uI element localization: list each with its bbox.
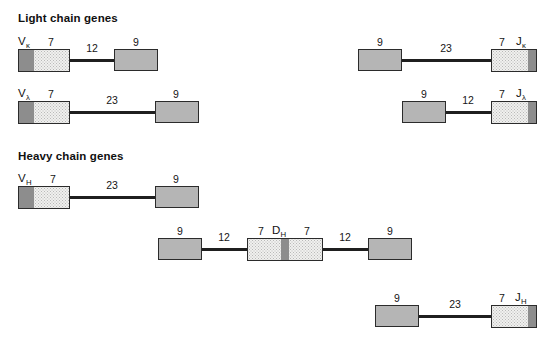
nonamer-box-j-kappa (358, 49, 402, 71)
nonamer-box-d-heavy-left (158, 238, 202, 260)
j-kappa-coding-region (528, 50, 536, 71)
heptamer-label-v-heavy: 7 (46, 173, 60, 185)
spacer-label-v-kappa: 12 (80, 42, 104, 54)
label-d-heavy: DH (272, 224, 286, 236)
spacer-label-j-heavy: 23 (443, 298, 467, 310)
v-heavy-dashed-edge (18, 188, 19, 207)
nonamer-label-d-heavy-left: 9 (168, 225, 192, 237)
label-v-lambda: Vλ (18, 87, 30, 99)
spacer-label-d-heavy-left: 12 (212, 231, 236, 243)
d-heavy-heptamer-region-left (248, 239, 281, 260)
spacer-line-v-lambda (70, 111, 155, 114)
d-heavy-coding-region (281, 239, 289, 260)
heptamer-label-v-lambda: 7 (44, 88, 58, 100)
spacer-label-j-kappa: 23 (434, 42, 458, 54)
label-j-lambda: Jλ (516, 87, 526, 99)
v-kappa-coding-region (19, 50, 34, 71)
spacer-label-d-heavy-right: 12 (333, 231, 357, 243)
spacer-line-v-kappa (70, 59, 114, 62)
spacer-label-j-lambda: 12 (456, 94, 480, 106)
heptamer-label-j-heavy: 7 (495, 292, 509, 304)
nonamer-box-j-heavy (375, 305, 419, 327)
figure-canvas: Light chain genes Vκ 7 12 9 Vλ 7 23 9 9 … (0, 0, 546, 337)
v-heavy-coding-region (19, 187, 34, 208)
label-j-kappa: Jκ (516, 35, 526, 47)
nonamer-label-v-heavy: 9 (164, 173, 188, 185)
heptamer-label-j-lambda: 7 (495, 88, 509, 100)
j-lambda-heptamer-region (492, 102, 528, 123)
segment-j-lambda (491, 101, 537, 124)
segment-j-heavy (491, 305, 537, 328)
j-kappa-heptamer-region (492, 50, 528, 71)
segment-d-heavy (247, 238, 323, 261)
v-kappa-dashed-edge (18, 51, 19, 70)
heptamer-label-v-kappa: 7 (44, 36, 58, 48)
spacer-line-j-kappa (402, 59, 491, 62)
segment-v-lambda (18, 101, 70, 124)
label-v-kappa: Vκ (18, 35, 30, 47)
j-lambda-coding-region (528, 102, 536, 123)
nonamer-label-d-heavy-right: 9 (378, 225, 402, 237)
nonamer-box-v-heavy (155, 186, 199, 208)
label-v-heavy: VH (18, 172, 31, 184)
d-heavy-heptamer-region-right (289, 239, 322, 260)
j-heavy-coding-region (528, 306, 536, 327)
j-heavy-heptamer-region (492, 306, 528, 327)
spacer-line-d-heavy-left (202, 248, 247, 251)
spacer-label-v-lambda: 23 (100, 94, 124, 106)
v-heavy-heptamer-region (34, 187, 69, 208)
spacer-line-v-heavy (70, 196, 155, 199)
nonamer-label-v-lambda: 9 (164, 88, 188, 100)
label-j-heavy-letter: J (515, 291, 521, 303)
nonamer-box-j-lambda (402, 101, 446, 123)
spacer-line-j-heavy (419, 315, 491, 318)
label-v-lambda-letter: V (18, 87, 26, 99)
v-kappa-heptamer-region (34, 50, 69, 71)
spacer-line-j-lambda (446, 111, 491, 114)
spacer-label-v-heavy: 23 (100, 179, 124, 191)
nonamer-box-v-kappa (114, 49, 158, 71)
nonamer-label-j-heavy: 9 (385, 292, 409, 304)
segment-v-kappa (18, 49, 70, 72)
v-lambda-coding-region (19, 102, 34, 123)
v-lambda-dashed-edge (18, 103, 19, 122)
section-heading-light-chain: Light chain genes (18, 12, 118, 24)
spacer-line-d-heavy-right (323, 248, 368, 251)
label-v-kappa-letter: V (18, 35, 26, 47)
label-j-heavy: JH (515, 291, 526, 303)
segment-v-heavy (18, 186, 70, 209)
nonamer-label-v-kappa: 9 (124, 36, 148, 48)
nonamer-label-j-kappa: 9 (368, 36, 392, 48)
label-d-heavy-letter: D (272, 224, 280, 236)
v-lambda-heptamer-region (34, 102, 69, 123)
nonamer-label-j-lambda: 9 (412, 88, 436, 100)
label-j-lambda-letter: J (516, 87, 522, 99)
nonamer-box-d-heavy-right (368, 238, 412, 260)
section-heading-heavy-chain: Heavy chain genes (18, 150, 124, 162)
heptamer-label-d-heavy-left: 7 (254, 225, 268, 237)
label-v-heavy-letter: V (18, 172, 26, 184)
heptamer-label-j-kappa: 7 (495, 36, 509, 48)
heptamer-label-d-heavy-right: 7 (300, 225, 314, 237)
segment-j-kappa (491, 49, 537, 72)
label-j-kappa-letter: J (516, 35, 522, 47)
nonamer-box-v-lambda (155, 101, 199, 123)
